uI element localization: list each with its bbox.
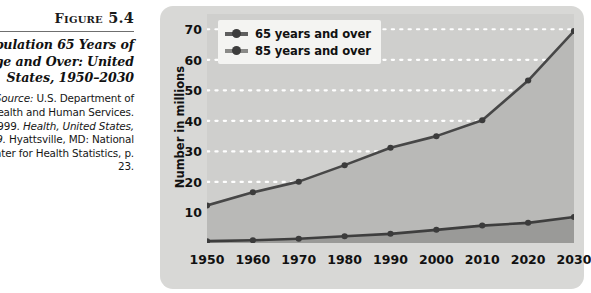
y-tick-label: 50 [185,83,202,98]
source-tail: Hyattsville, MD: National Center for Hea… [0,133,134,172]
x-tick-label: 1980 [327,252,362,267]
legend-label-85: 85 years and over [255,44,371,58]
x-tick-label: 1960 [235,252,270,267]
x-tick-label: 2010 [465,252,500,267]
data-point-marker [387,231,393,237]
source-prefix: Source: [0,92,33,104]
figure-title: Population 65 Years of Age and Over: Uni… [0,37,134,86]
chart-panel: Number in millions 10203040506070 195019… [160,6,584,289]
data-point-marker [433,133,439,139]
x-tick-label: 1950 [190,252,225,267]
data-point-marker [525,220,531,226]
x-tick-label: 2020 [511,252,546,267]
chart-legend: 65 years and over 85 years and over [218,20,381,64]
y-tick-label: 70 [185,22,202,37]
data-point-marker [387,145,393,151]
data-point-marker [479,117,485,123]
data-point-marker [250,237,256,243]
y-tick-label: 20 [185,174,202,189]
data-point-marker [296,179,302,185]
legend-label-65: 65 years and over [255,27,371,41]
figure-number-label: Figure 5.4 [0,6,134,27]
data-point-marker [250,189,256,195]
data-point-marker [525,78,531,84]
x-tick-label: 2000 [419,252,454,267]
data-point-marker [479,223,485,229]
legend-marker-icon-65 [225,28,248,39]
y-tick-label: 10 [185,205,202,220]
x-tick-label: 1970 [281,252,316,267]
y-tick-label: 40 [185,113,202,128]
data-point-marker [296,236,302,242]
y-tick-label: 60 [185,52,202,67]
data-point-marker [433,227,439,233]
legend-item-65: 65 years and over [225,25,371,42]
figure-source-note: Source: U.S. Department of Health and Hu… [0,92,134,173]
x-tick-label: 1990 [373,252,408,267]
x-tick-label: 2030 [557,252,591,267]
legend-marker-icon-85 [225,45,248,56]
figure-caption-block: Figure 5.4 Population 65 Years of Age an… [0,0,140,293]
data-point-marker [342,233,348,239]
figure-divider-rule [0,31,134,33]
data-point-marker [342,162,348,168]
y-tick-label: 30 [185,144,202,159]
legend-item-85: 85 years and over [225,42,371,59]
